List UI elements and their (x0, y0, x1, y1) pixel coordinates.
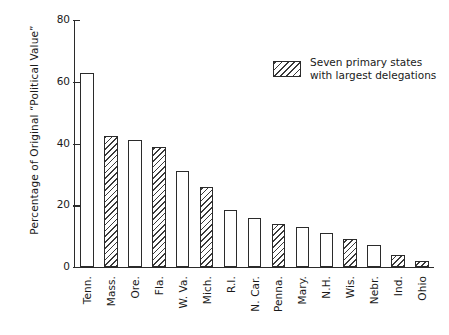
x-tick-ind: Ind. (392, 272, 404, 335)
x-tick-label: Nebr. (368, 276, 380, 304)
x-tick-label: Mass. (105, 276, 117, 306)
legend: Seven primary states with largest delega… (273, 56, 436, 82)
x-tick-label: Tenn. (81, 276, 93, 304)
legend-label: Seven primary states with largest delega… (310, 56, 436, 82)
bar-ind (391, 255, 405, 267)
bar-mary (296, 227, 310, 267)
x-tick-label: R.I. (225, 276, 237, 293)
y-tick-20: 20 (36, 205, 80, 206)
x-tick-label: N.H. (320, 276, 332, 299)
y-tick-label: 0 (40, 260, 70, 272)
x-tick-label: W. Va. (177, 276, 189, 309)
bar-nebr (367, 245, 381, 267)
x-tick-label: N. Car. (249, 276, 261, 312)
x-tick-label: Ore. (129, 276, 141, 299)
bar-mich (200, 187, 214, 267)
y-tick-40: 40 (36, 144, 80, 145)
legend-label-line-2: with largest delegations (310, 69, 436, 82)
bar-n-car (248, 218, 262, 267)
x-tick-label: Mich. (201, 276, 213, 304)
bar-ohio (415, 261, 429, 267)
x-tick-fla: Fla. (153, 272, 165, 335)
x-tick-n-car: N. Car. (249, 272, 261, 335)
y-tick-label: 20 (40, 198, 70, 210)
x-tick-ore: Ore. (129, 272, 141, 335)
x-tick-mary: Mary. (296, 272, 308, 335)
y-tick-0: 0 (36, 267, 80, 268)
bar-mass (104, 136, 118, 267)
x-tick-ohio: Ohio (416, 272, 428, 335)
legend-swatch-hatched-icon (273, 61, 301, 77)
x-tick-tenn: Tenn. (81, 272, 93, 335)
x-tick-nebr: Nebr. (368, 272, 380, 335)
bar-r-i (224, 210, 238, 267)
y-axis-title: Percentage of Original “Political Value” (28, 0, 40, 260)
bar-w-va (176, 171, 190, 267)
x-tick-label: Ind. (392, 276, 404, 296)
y-tick-mark (73, 267, 80, 268)
x-axis-line (74, 267, 434, 268)
x-tick-mass: Mass. (105, 272, 117, 335)
x-tick-label: Fla. (153, 276, 165, 295)
x-tick-label: Wis. (344, 276, 356, 298)
x-tick-w-va: W. Va. (177, 272, 189, 335)
x-tick-label: Penna. (272, 276, 284, 312)
y-tick-60: 60 (36, 82, 80, 83)
legend-label-line-1: Seven primary states (310, 56, 436, 69)
y-tick-80: 80 (36, 20, 80, 21)
bar-tenn (80, 73, 94, 268)
y-tick-label: 40 (40, 137, 70, 149)
x-tick-mich: Mich. (201, 272, 213, 335)
bar-n-h (320, 233, 334, 267)
bar-chart-figure: Percentage of Original “Political Value”… (0, 0, 449, 335)
y-tick-label: 80 (40, 13, 70, 25)
y-tick-label: 60 (40, 75, 70, 87)
bar-fla (152, 147, 166, 267)
x-tick-label: Ohio (416, 276, 428, 301)
bar-wis (343, 239, 357, 267)
x-tick-label: Mary. (296, 276, 308, 304)
x-tick-n-h: N.H. (320, 272, 332, 335)
x-tick-r-i: R.I. (225, 272, 237, 335)
x-tick-penna: Penna. (272, 272, 284, 335)
bar-penna (272, 224, 286, 267)
x-tick-wis: Wis. (344, 272, 356, 335)
bar-ore (128, 140, 142, 267)
